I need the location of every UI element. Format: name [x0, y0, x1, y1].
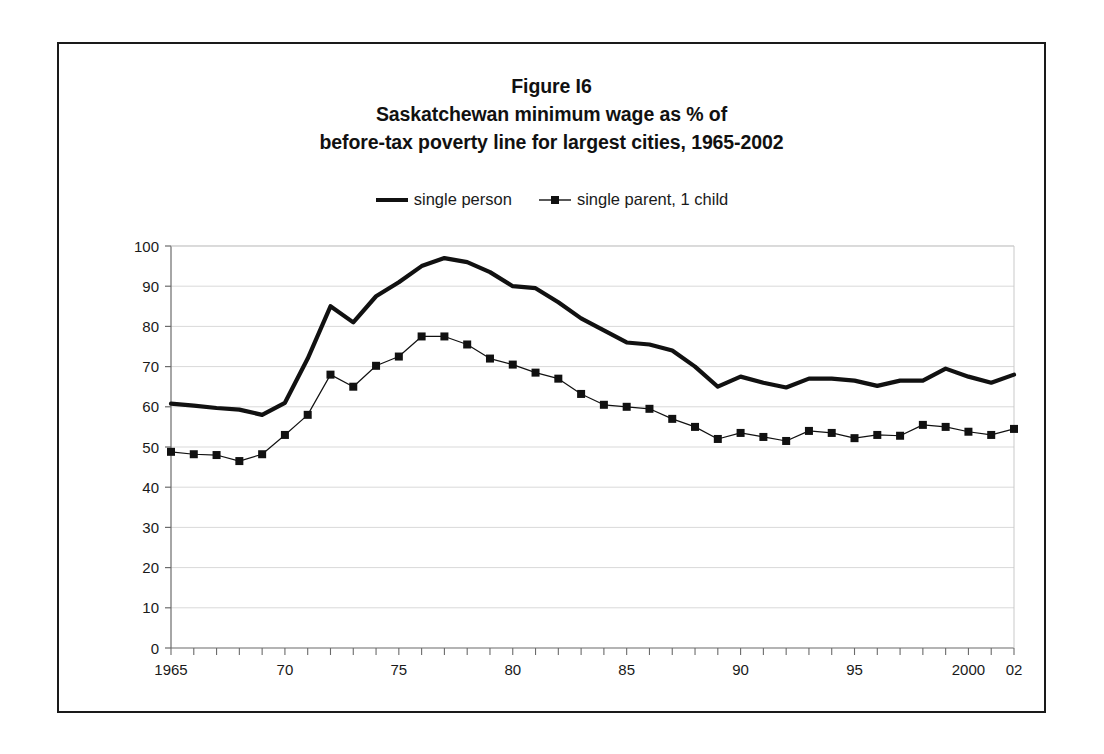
data-point-marker — [281, 431, 289, 439]
data-point-marker — [942, 423, 950, 431]
y-tick-label: 80 — [142, 318, 159, 335]
data-point-marker — [532, 369, 540, 377]
x-tick-label: 02 — [1006, 661, 1023, 678]
data-point-marker — [554, 375, 562, 383]
data-point-marker — [258, 450, 266, 458]
y-tick-label: 70 — [142, 358, 159, 375]
data-point-marker — [486, 355, 494, 363]
x-tick-label: 95 — [846, 661, 863, 678]
data-point-marker — [782, 437, 790, 445]
series-line-single-parent-child — [171, 336, 1014, 461]
data-point-marker — [1010, 425, 1018, 433]
data-point-marker — [440, 332, 448, 340]
data-point-marker — [235, 457, 243, 465]
data-point-marker — [759, 433, 767, 441]
x-tick-label: 2000 — [952, 661, 985, 678]
y-tick-label: 10 — [142, 599, 159, 616]
data-point-marker — [577, 390, 585, 398]
data-point-marker — [645, 405, 653, 413]
data-point-marker — [851, 434, 859, 442]
data-point-marker — [691, 423, 699, 431]
data-point-marker — [714, 435, 722, 443]
data-point-marker — [805, 427, 813, 435]
x-tick-label: 90 — [732, 661, 749, 678]
data-point-marker — [964, 428, 972, 436]
data-point-marker — [304, 411, 312, 419]
figure-frame: Figure I6 Saskatchewan minimum wage as %… — [57, 42, 1046, 713]
data-point-marker — [349, 383, 357, 391]
data-point-marker — [737, 429, 745, 437]
data-point-marker — [326, 371, 334, 379]
x-tick-label: 80 — [504, 661, 521, 678]
y-tick-label: 20 — [142, 559, 159, 576]
data-point-marker — [668, 415, 676, 423]
y-tick-label: 90 — [142, 278, 159, 295]
x-tick-label: 75 — [390, 661, 407, 678]
x-tick-label: 1965 — [154, 661, 187, 678]
data-point-marker — [167, 448, 175, 456]
data-point-marker — [600, 401, 608, 409]
y-tick-label: 40 — [142, 479, 159, 496]
data-point-marker — [623, 403, 631, 411]
series-line-single-person — [171, 258, 1014, 415]
data-point-marker — [896, 432, 904, 440]
y-tick-label: 0 — [151, 640, 159, 657]
x-tick-label: 70 — [277, 661, 294, 678]
y-tick-label: 60 — [142, 398, 159, 415]
data-point-marker — [190, 450, 198, 458]
data-point-marker — [919, 421, 927, 429]
data-point-marker — [873, 431, 881, 439]
data-point-marker — [987, 431, 995, 439]
y-tick-label: 50 — [142, 439, 159, 456]
data-point-marker — [213, 451, 221, 459]
x-tick-label: 85 — [618, 661, 635, 678]
plot-area: 0102030405060708090100196570758085909520… — [59, 44, 1048, 715]
y-tick-label: 100 — [134, 238, 159, 255]
y-tick-label: 30 — [142, 519, 159, 536]
data-point-marker — [828, 429, 836, 437]
data-point-marker — [395, 353, 403, 361]
data-point-marker — [372, 362, 380, 370]
data-point-marker — [509, 361, 517, 369]
data-point-marker — [463, 340, 471, 348]
line-chart: 0102030405060708090100196570758085909520… — [59, 44, 1048, 715]
data-point-marker — [418, 332, 426, 340]
